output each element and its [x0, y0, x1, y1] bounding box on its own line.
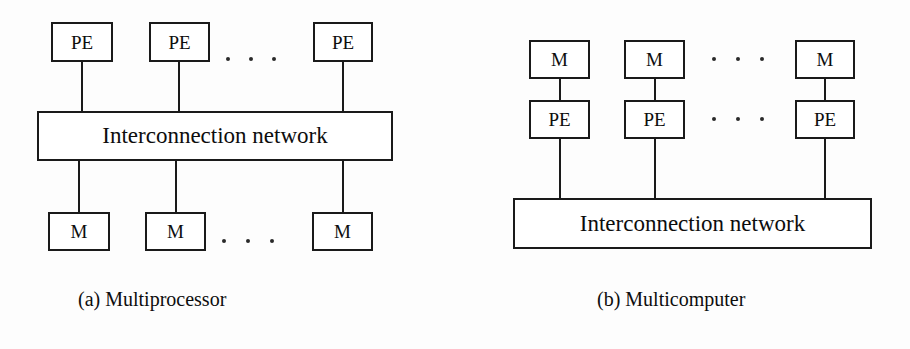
interconnection-network-box: Interconnection network: [513, 198, 872, 249]
pe-box: PE: [624, 100, 685, 139]
connector-wire: [342, 62, 344, 112]
connector-wire: [178, 62, 180, 112]
pe-box: PE: [795, 100, 855, 139]
dot: [760, 117, 764, 121]
interconnection-network-box: Interconnection network: [37, 111, 393, 161]
connector-wire: [81, 62, 83, 112]
dot: [272, 57, 276, 61]
connector-wire: [342, 160, 344, 213]
connector-wire: [559, 78, 561, 101]
ellipsis-pe-row: [712, 116, 764, 122]
dot: [270, 239, 274, 243]
memory-box: M: [145, 212, 206, 251]
dot: [246, 239, 250, 243]
connector-wire: [559, 138, 561, 199]
connector-wire: [654, 78, 656, 101]
ellipsis-top-row: [226, 56, 276, 62]
dot: [736, 117, 740, 121]
connector-wire: [78, 160, 80, 213]
dot: [249, 57, 253, 61]
pe-box: PE: [51, 22, 113, 62]
dot: [760, 57, 764, 61]
connector-wire: [824, 138, 826, 199]
connector-wire: [175, 160, 177, 213]
panel-caption-b: (b) Multicomputer: [597, 288, 745, 311]
memory-box: M: [312, 212, 373, 251]
memory-box: M: [624, 40, 685, 79]
memory-box: M: [48, 212, 110, 251]
ellipsis-memory-row: [712, 56, 764, 62]
pe-box: PE: [529, 100, 590, 139]
panel-caption-a: (a) Multiprocessor: [78, 288, 226, 311]
connector-wire: [824, 78, 826, 101]
connector-wire: [654, 138, 656, 199]
dot: [736, 57, 740, 61]
dot: [222, 239, 226, 243]
pe-box: PE: [313, 22, 373, 62]
dot: [712, 57, 716, 61]
figure-canvas: PE PE PE Interconnection network M M M: [0, 0, 910, 349]
pe-box: PE: [149, 22, 210, 62]
memory-box: M: [795, 40, 855, 79]
dot: [226, 57, 230, 61]
ellipsis-bottom-row: [222, 238, 274, 244]
dot: [712, 117, 716, 121]
memory-box: M: [529, 40, 590, 79]
